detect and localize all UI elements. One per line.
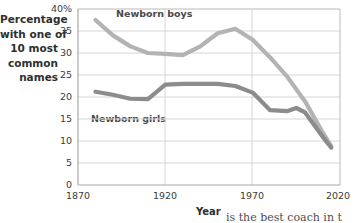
plot-area	[0, 0, 358, 223]
chart-figure: Percentage with one of 10 most common na…	[0, 0, 358, 223]
data-line-newborn-girls	[95, 84, 331, 148]
